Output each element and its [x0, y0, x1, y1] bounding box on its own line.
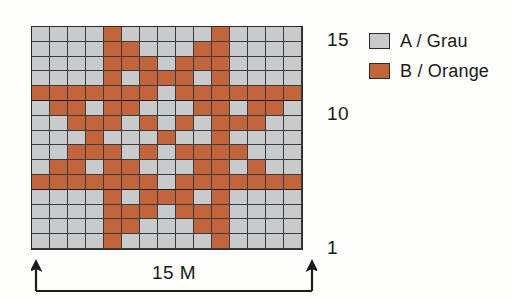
chart-cell [176, 116, 194, 131]
chart-cell [122, 71, 140, 86]
chart-cell [50, 42, 68, 57]
chart-cell [104, 71, 122, 86]
chart-cell [284, 175, 302, 190]
chart-cell [176, 71, 194, 86]
chart-cell [86, 86, 104, 101]
chart-cell [266, 71, 284, 86]
chart-cell [212, 42, 230, 57]
chart-cell [212, 219, 230, 234]
chart-cell [176, 86, 194, 101]
chart-cell [266, 205, 284, 220]
chart-cell [284, 219, 302, 234]
chart-cell [284, 57, 302, 72]
chart-cell [68, 42, 86, 57]
legend-item-b: B / Orange [369, 56, 509, 86]
chart-cell [284, 101, 302, 116]
chart-cell [68, 205, 86, 220]
chart-cell [248, 160, 266, 175]
chart-cell [158, 190, 176, 205]
chart-cell [176, 131, 194, 146]
chart-cell [248, 71, 266, 86]
chart-cell [86, 116, 104, 131]
chart-cell [68, 131, 86, 146]
chart-cell [230, 42, 248, 57]
chart-cell [158, 101, 176, 116]
chart-cell [140, 42, 158, 57]
chart-cell [86, 190, 104, 205]
chart-cell [212, 101, 230, 116]
chart-cell [230, 57, 248, 72]
chart-cell [86, 131, 104, 146]
chart-cell [86, 27, 104, 42]
chart-cell [50, 86, 68, 101]
chart-cell [104, 205, 122, 220]
chart-cell [104, 101, 122, 116]
chart-cell [230, 27, 248, 42]
chart-cell [68, 160, 86, 175]
chart-cell [176, 190, 194, 205]
chart-cell [284, 86, 302, 101]
chart-cell [284, 42, 302, 57]
chart-cell [32, 42, 50, 57]
chart-cell [122, 86, 140, 101]
chart-cell [266, 219, 284, 234]
chart-cell [248, 205, 266, 220]
chart-cell [212, 190, 230, 205]
chart-stage: 15 10 1 A / Grau B / Orange 15 M [0, 0, 511, 299]
chart-cell [212, 57, 230, 72]
chart-cell [158, 27, 176, 42]
chart-cell [122, 116, 140, 131]
colorwork-chart-grid [31, 26, 303, 250]
row-label-top: 15 [327, 30, 349, 49]
chart-cell [230, 234, 248, 249]
chart-cell [50, 175, 68, 190]
chart-cell [194, 190, 212, 205]
chart-cell [122, 205, 140, 220]
chart-cell [122, 27, 140, 42]
chart-cell [140, 27, 158, 42]
chart-cell [104, 42, 122, 57]
chart-cell [212, 27, 230, 42]
chart-cell [140, 160, 158, 175]
chart-cell [122, 101, 140, 116]
chart-cell [176, 101, 194, 116]
chart-cell [230, 71, 248, 86]
chart-cell [86, 160, 104, 175]
row-label-bottom: 1 [327, 238, 338, 257]
chart-cell [248, 145, 266, 160]
chart-cell [140, 57, 158, 72]
chart-cell [212, 71, 230, 86]
chart-cell [140, 205, 158, 220]
chart-cell [68, 145, 86, 160]
chart-cell [194, 131, 212, 146]
chart-cell [32, 145, 50, 160]
chart-cell [68, 86, 86, 101]
chart-cell [248, 86, 266, 101]
chart-cell [194, 27, 212, 42]
chart-cell [32, 160, 50, 175]
chart-cell [176, 42, 194, 57]
chart-cell [248, 27, 266, 42]
chart-cell [212, 116, 230, 131]
chart-cell [104, 86, 122, 101]
chart-cell [86, 234, 104, 249]
chart-cell [194, 175, 212, 190]
chart-cell [122, 57, 140, 72]
chart-cell [194, 42, 212, 57]
chart-cell [284, 190, 302, 205]
chart-cell [266, 86, 284, 101]
chart-cell [104, 116, 122, 131]
chart-cell [176, 57, 194, 72]
chart-cell [230, 116, 248, 131]
chart-cell [32, 101, 50, 116]
chart-cell [32, 27, 50, 42]
chart-cell [212, 160, 230, 175]
chart-cell [194, 86, 212, 101]
chart-cell [122, 131, 140, 146]
chart-cell [266, 234, 284, 249]
chart-cell [212, 86, 230, 101]
chart-cell [68, 57, 86, 72]
chart-cell [248, 234, 266, 249]
legend-item-a: A / Grau [369, 26, 509, 56]
chart-cell [86, 71, 104, 86]
